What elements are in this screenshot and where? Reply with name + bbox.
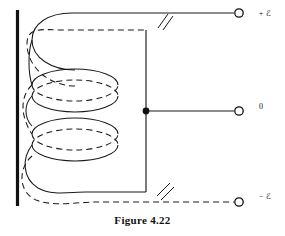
figure-caption: Figure 4.22	[0, 214, 285, 226]
figure-container: + ℰ 0 − ℰ Figure 4.22	[0, 0, 285, 236]
top-lead-solid	[32, 13, 234, 70]
coil-turn-2-rear	[32, 134, 118, 150]
coil-turn-1-lower-rim-rear	[32, 80, 118, 96]
bottom-lead-dashed	[22, 156, 234, 204]
terminal-negative-circle[interactable]	[235, 198, 243, 206]
coil-turn-1-lower-rim-front	[32, 96, 118, 112]
coil-turn-1-rear	[32, 85, 118, 101]
terminal-negative-label: − ℰ	[259, 192, 271, 201]
terminal-positive-circle[interactable]	[235, 9, 243, 17]
helix-connector-1-dashed	[23, 85, 32, 134]
terminal-zero-label: 0	[259, 102, 263, 111]
coil-turn-2-lower-rim-front	[32, 145, 118, 161]
bottom-lead-solid	[25, 145, 146, 193]
center-tap-junction-dot	[143, 108, 150, 115]
terminal-positive-label: + ℰ	[259, 9, 271, 18]
top-wire-break-icon	[158, 14, 173, 30]
coil-turn-2-lower-rim-rear	[32, 129, 118, 145]
terminal-zero-circle[interactable]	[235, 107, 243, 115]
bottom-wire-break-icon	[157, 183, 174, 200]
top-lead-dashed	[27, 30, 146, 86]
helix-connector-1-solid	[26, 96, 32, 126]
circuit-diagram	[0, 0, 285, 236]
coil-turn-2-front	[32, 118, 118, 134]
